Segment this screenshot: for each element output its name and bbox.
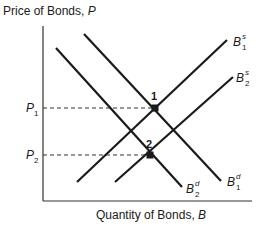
equilibrium-label-1: 1 <box>151 90 157 102</box>
svg-text:2: 2 <box>245 79 250 88</box>
svg-text:d: d <box>195 179 200 188</box>
price-label-p1: P1 <box>26 101 39 118</box>
bond-market-diagram: 1 2 Price of Bonds, P Quantity of Bonds,… <box>0 0 267 228</box>
supply-2-label: B s 2 <box>236 68 250 88</box>
svg-text:1: 1 <box>236 183 241 192</box>
svg-text:B: B <box>236 71 244 85</box>
svg-text:s: s <box>245 68 249 77</box>
y-axis-title: Price of Bonds, P <box>3 4 96 18</box>
equilibrium-point-2 <box>147 152 154 159</box>
demand-1-label: B d 1 <box>227 172 241 192</box>
svg-text:B: B <box>233 35 241 49</box>
equilibrium-point-1 <box>152 105 159 112</box>
svg-text:B: B <box>186 182 194 196</box>
demand-2-label: B d 2 <box>186 179 200 199</box>
svg-text:s: s <box>242 32 246 41</box>
svg-text:1: 1 <box>242 43 247 52</box>
price-label-p2: P2 <box>26 148 39 165</box>
x-axis-title: Quantity of Bonds, B <box>96 208 206 222</box>
equilibrium-label-2: 2 <box>146 138 152 150</box>
svg-text:2: 2 <box>195 190 200 199</box>
supply-1-label: B s 1 <box>233 32 247 52</box>
svg-text:d: d <box>236 172 241 181</box>
svg-text:B: B <box>227 175 235 189</box>
